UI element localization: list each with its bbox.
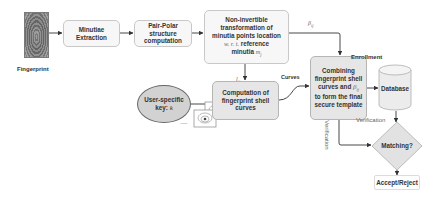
fingerprint-label: Fingerprint xyxy=(17,66,49,72)
shell-curves-computation-box: Computation of fingerprint shell curves xyxy=(212,81,279,120)
noninv-line3: minutia points location xyxy=(212,32,281,40)
more-thumbnails-ellipsis: ...... xyxy=(180,119,187,125)
pair-polar-box: Pair-Polar structure computation xyxy=(134,20,192,47)
fingerprint-image xyxy=(24,12,49,58)
noninv-line5: minutia mj xyxy=(232,48,262,58)
noninv-line1: Non-invertible xyxy=(225,16,267,24)
k-math: k xyxy=(170,104,173,112)
combining-template-box: Combining fingerprint shell curves and β… xyxy=(310,56,367,120)
curves-edge-label: Curves xyxy=(281,74,300,80)
combining-line3: curves and βij xyxy=(318,83,359,93)
verification-vertical-label: Verification xyxy=(324,120,330,149)
combining-line1: Combining xyxy=(322,67,355,75)
minutiae-extraction-label: Minutiae Extraction xyxy=(72,26,112,42)
wrt-math: w. r. t. xyxy=(224,40,239,47)
database-label: Database xyxy=(380,85,410,92)
reference-text: reference xyxy=(239,40,269,47)
shell-curves-label: Computation of fingerprint shell curves xyxy=(215,89,276,113)
matching-label: Matching? xyxy=(372,142,422,149)
diagram-canvas: Fingerprint Minutiae Extraction Pair-Pol… xyxy=(0,0,444,198)
accept-reject-label: Accept/Reject xyxy=(376,179,418,187)
arrow-curves-to-combining xyxy=(279,86,309,100)
key-text: key: xyxy=(155,104,169,111)
combining-line4: to form the final xyxy=(315,93,363,101)
user-key-text: User-specific key: k xyxy=(144,96,184,113)
minutia-text: minutia xyxy=(232,48,256,55)
noninv-line4: w. r. t. reference xyxy=(224,40,269,48)
arrow-combining-to-matching xyxy=(339,120,371,145)
non-invertible-transformation-box: Non-invertible transformation of minutia… xyxy=(204,10,289,64)
beta-sub: ij xyxy=(311,23,314,28)
noninv-line2: transformation of xyxy=(220,24,272,32)
accept-reject-box: Accept/Reject xyxy=(374,175,420,190)
beta-edge-label: βij xyxy=(308,20,314,28)
curves-and-text: curves and xyxy=(318,83,353,90)
user-key-line1: User-specific xyxy=(144,96,184,104)
user-key-line2: key: k xyxy=(144,104,184,113)
user-specific-key-ellipse: User-specific key: k xyxy=(137,85,191,123)
verification-label: Verification xyxy=(356,117,385,123)
combining-line2: fingerprint shell xyxy=(315,75,363,83)
pair-polar-label: Pair-Polar structure computation xyxy=(137,22,189,46)
beta-math-sub: ij xyxy=(356,87,359,92)
enrollment-label: Enrollment xyxy=(351,54,382,60)
m-sub: j xyxy=(260,52,261,57)
combining-line5: secure template xyxy=(315,101,363,109)
minutiae-extraction-box: Minutiae Extraction xyxy=(63,20,120,47)
arrow-beta-to-combining xyxy=(289,33,340,55)
